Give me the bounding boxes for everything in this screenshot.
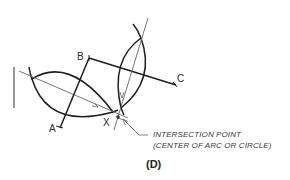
annotation-line-1: INTERSECTION POINT — [153, 130, 241, 140]
point-label-a: A — [49, 123, 56, 134]
lower-arc-left — [32, 79, 118, 117]
arrow-icon — [120, 92, 124, 98]
figure-label: (D) — [146, 158, 161, 170]
point-label-c: C — [177, 73, 184, 84]
line-bc — [89, 58, 176, 85]
annotation-line-2: (CENTER OF ARC OR CIRCLE) — [153, 141, 272, 151]
upper-arc-left — [29, 67, 113, 112]
point-label-x: X — [103, 117, 110, 128]
line-ab — [60, 58, 89, 128]
construction-diagram — [0, 0, 290, 180]
point-label-b: B — [77, 51, 84, 62]
left-arc-right-lens — [118, 38, 141, 115]
intersection-point — [116, 115, 120, 119]
